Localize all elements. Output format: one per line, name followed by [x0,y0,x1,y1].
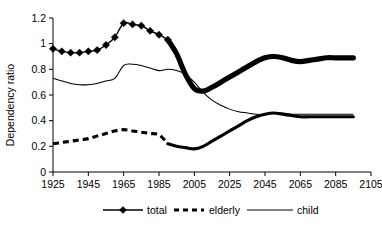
x-tick-label: 2085 [324,178,348,190]
series-line-total-historical [53,22,168,52]
y-tick-label: 0.8 [31,63,46,75]
y-tick-label: 0.6 [31,89,46,101]
data-point-marker-total [138,22,145,29]
y-tick-label: 0 [40,166,46,178]
legend-marker-total [119,206,126,213]
x-tick-label: 1925 [41,178,65,190]
data-point-marker-total [58,48,65,55]
x-tick-label: 1985 [147,178,171,190]
series-layer [49,19,353,148]
x-tick-label: 2005 [183,178,207,190]
x-tick-label: 2025 [218,178,242,190]
x-tick-label: 2065 [289,178,313,190]
legend-label-elderly: elderly [209,204,241,216]
x-tick-label: 1965 [112,178,136,190]
series-line-elderly-historical [53,130,168,144]
legend-label-total: total [147,204,167,216]
data-point-marker-total [129,21,136,28]
y-tick-label: 0.4 [31,114,46,126]
data-point-marker-total [146,27,153,34]
y-axis-ticks: 00.20.40.60.811.2 [31,12,53,178]
x-tick-label: 2105 [359,178,382,190]
x-tick-label: 2045 [253,178,277,190]
legend-label-child: child [297,204,319,216]
dependency-ratio-line-chart: Dependency ratio 00.20.40.60.811.2 19251… [0,0,382,229]
data-point-marker-total [76,49,83,56]
x-axis-ticks: 1925194519651985200520252045206520852105 [41,172,382,190]
data-point-marker-total [67,49,74,56]
y-tick-label: 1.2 [31,12,46,24]
data-point-marker-total [49,45,56,52]
chart-legend: totalelderlychild [103,204,319,216]
data-point-marker-total [93,46,100,53]
y-tick-label: 0.2 [31,140,46,152]
y-axis-title: Dependency ratio [4,64,16,146]
series-line-elderly-projected [168,113,353,149]
data-point-marker-total [85,48,92,55]
chart-figure: Dependency ratio 00.20.40.60.811.2 19251… [0,0,382,229]
x-tick-label: 1945 [77,178,101,190]
data-point-marker-total [155,31,162,38]
y-tick-label: 1 [40,37,46,49]
